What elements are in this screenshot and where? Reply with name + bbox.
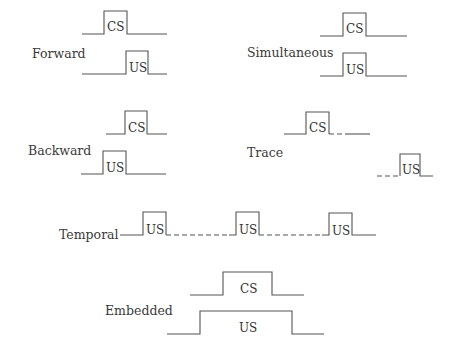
pulse-label: CS: [240, 282, 257, 296]
panel-label: Forward: [32, 46, 86, 61]
pulse-label: CS: [128, 121, 145, 135]
panel-label: Backward: [28, 143, 91, 158]
panel-label: Temporal: [59, 227, 119, 242]
pulse-label: CS: [107, 20, 124, 34]
panel-embedded: Embedded CS US: [105, 272, 324, 335]
panel-temporal: Temporal US US US: [59, 212, 376, 242]
conditioning-timing-diagram: Forward CS US Simultaneous CS US Backwar…: [0, 0, 454, 348]
panel-label: Trace: [247, 145, 283, 160]
pulse-label: US: [146, 223, 164, 237]
cs-waveform: [82, 11, 167, 34]
pulse-label: CS: [309, 121, 326, 135]
pulse-label: US: [332, 224, 350, 238]
pulse-label: US: [239, 321, 257, 335]
pulse-label: US: [106, 161, 124, 175]
pulse-label: CS: [346, 22, 363, 36]
panel-backward: Backward CS US: [28, 111, 167, 175]
us-waveform: [82, 51, 167, 74]
panel-simultaneous: Simultaneous CS US: [247, 13, 407, 77]
panel-forward: Forward CS US: [32, 11, 167, 75]
pulse-label: US: [346, 63, 364, 77]
panel-label: Embedded: [105, 303, 173, 318]
pulse-label: US: [129, 61, 147, 75]
panel-trace: Trace CS US: [247, 112, 433, 177]
pulse-label: US: [239, 223, 257, 237]
cs-waveform: [320, 13, 407, 36]
pulse-label: US: [402, 163, 420, 177]
panel-label: Simultaneous: [247, 45, 333, 60]
